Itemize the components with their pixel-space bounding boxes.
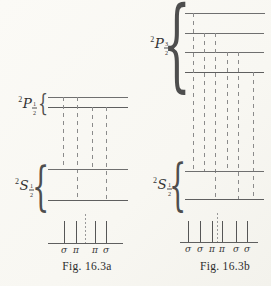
term-label-upper-a: 2 P 1 2 [8, 93, 37, 113]
spectral-line [95, 221, 96, 243]
polarization-label: π [216, 245, 228, 254]
figure-b-caption: Fig. 16.3b [186, 259, 264, 273]
brace-upper-a-icon: { [37, 92, 48, 114]
center-wavelength-dashed-line [85, 214, 86, 243]
term-label-lower-a: 2 S 1 2 [6, 175, 34, 195]
spectral-line [188, 221, 189, 242]
energy-level-line [48, 97, 128, 98]
transition-dashed-line [238, 52, 239, 199]
brace-upper-b-icon: { [167, 3, 186, 84]
transition-dashed-line [227, 52, 228, 171]
spectrum-baseline [180, 242, 258, 243]
transition-dashed-line [106, 107, 107, 200]
spectral-line [76, 221, 77, 243]
polarization-label: σ [194, 245, 206, 254]
term-letter: S [20, 177, 29, 193]
brace-lower-a-icon: { [33, 164, 48, 207]
center-wavelength-dashed-line [217, 213, 218, 242]
term-superscript: 2 [15, 177, 19, 186]
energy-level-line [185, 13, 265, 14]
polarization-label: σ [100, 246, 112, 255]
term-letter: P [23, 95, 32, 111]
transition-dashed-line [92, 107, 93, 169]
spectral-line [236, 221, 237, 242]
figure-a-caption: Fig. 16.3a [48, 259, 126, 273]
term-superscript: 2 [18, 95, 22, 104]
polarization-label: σ [58, 246, 70, 255]
energy-level-line [185, 171, 264, 172]
energy-level-line [185, 199, 264, 200]
spectral-line [212, 221, 213, 242]
spectral-line [200, 221, 201, 242]
polarization-label: π [70, 246, 82, 255]
brace-lower-b-icon: { [170, 162, 185, 207]
transition-dashed-line [63, 97, 64, 169]
energy-level-line [48, 169, 128, 170]
energy-level-line [185, 52, 264, 53]
spectral-line [247, 221, 248, 242]
energy-level-line [48, 200, 128, 201]
polarization-label: σ [182, 245, 194, 254]
term-label-lower-b: 2 S 1 2 [144, 174, 172, 194]
spectrum-baseline [48, 243, 123, 244]
term-superscript: 2 [150, 35, 154, 44]
polarization-label: σ [241, 245, 253, 254]
transition-dashed-line [77, 97, 78, 200]
spectral-line [106, 221, 107, 243]
term-letter: S [158, 176, 167, 192]
transition-dashed-line [253, 72, 254, 199]
term-superscript: 2 [153, 176, 157, 185]
spectral-line [64, 221, 65, 243]
transition-dashed-line [193, 13, 194, 171]
spectral-line [222, 221, 223, 242]
energy-level-line [48, 107, 128, 108]
transition-dashed-line [204, 33, 205, 171]
energy-level-line [185, 33, 264, 34]
textbook-figure-page: 2 P 1 2 { 2 S 1 2 { [0, 0, 271, 286]
transition-dashed-line [215, 33, 216, 199]
